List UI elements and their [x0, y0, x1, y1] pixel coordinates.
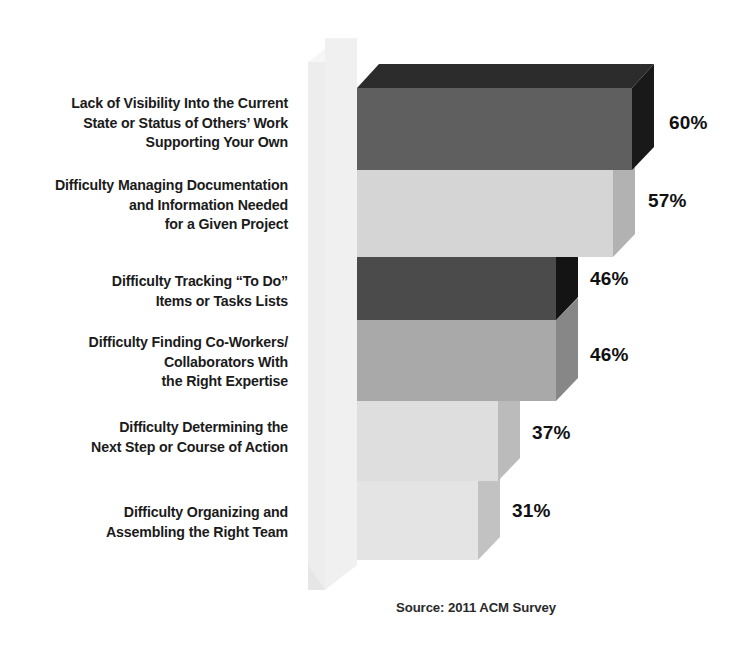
- value-label-2: 46%: [590, 268, 629, 290]
- bar-1-front-face: [357, 170, 613, 257]
- chart-svg: [0, 0, 742, 646]
- value-label-4: 37%: [532, 422, 571, 444]
- value-label-0: 60%: [669, 112, 708, 134]
- value-label-1: 57%: [648, 190, 687, 212]
- bar-chart-plot: 60% 57% 46% 46% 37% 31%: [0, 0, 742, 646]
- bar-2-front-face: [357, 257, 556, 320]
- back-wall-side: [325, 38, 357, 590]
- value-label-3: 46%: [590, 344, 629, 366]
- bar-4-front-face: [357, 401, 498, 481]
- bar-0: [357, 64, 654, 170]
- source-note: Source: 2011 ACM Survey: [396, 600, 556, 615]
- bar-3-front-face: [357, 320, 556, 401]
- value-label-5: 31%: [512, 500, 551, 522]
- bar-0-front-face: [357, 88, 632, 170]
- chart-page: Lack of Visibility Into the Current Stat…: [0, 0, 742, 646]
- bar-0-top-face: [357, 64, 654, 88]
- back-wall-face: [308, 62, 325, 590]
- bar-5-front-face: [357, 481, 478, 560]
